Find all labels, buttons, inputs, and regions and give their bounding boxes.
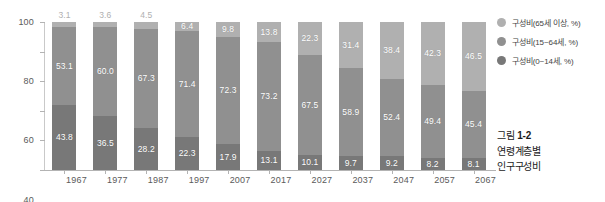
bar-group[interactable]: 42.349.48.2 bbox=[421, 22, 445, 170]
bar-segment-child[interactable]: 43.8 bbox=[52, 105, 76, 170]
bar-segment-child[interactable]: 13.1 bbox=[257, 151, 281, 170]
caption-line-2: 인구구성비 bbox=[497, 159, 541, 175]
x-tick-label: 2037 bbox=[340, 175, 386, 185]
bar-segment-elder[interactable]: 22.3 bbox=[298, 22, 322, 55]
legend-item[interactable]: 구성비(65세 이상, %) bbox=[497, 17, 581, 28]
legend-swatch-icon bbox=[497, 37, 506, 46]
bar-segment-elder[interactable]: 46.5 bbox=[462, 22, 486, 91]
legend-label: 구성비(15~64세, %) bbox=[512, 36, 578, 47]
y-tick-label: 60 bbox=[24, 135, 34, 145]
bar-value-label: 4.5 bbox=[140, 11, 152, 20]
bar-value-label: 8.2 bbox=[427, 160, 439, 169]
x-tick-label: 1997 bbox=[176, 175, 222, 185]
x-tick bbox=[392, 170, 393, 174]
bar-value-label: 38.4 bbox=[383, 46, 400, 55]
x-tick bbox=[105, 170, 106, 174]
bar-group[interactable]: 9.872.317.9 bbox=[216, 22, 240, 170]
y-tick-label: 40 bbox=[24, 195, 34, 202]
x-tick-label: 2007 bbox=[217, 175, 263, 185]
bar-segment-child[interactable]: 17.9 bbox=[216, 144, 240, 170]
bar-segment-child[interactable]: 8.1 bbox=[462, 158, 486, 170]
bar-segment-child[interactable]: 8.2 bbox=[421, 158, 445, 170]
bar-segment-work[interactable]: 45.4 bbox=[462, 91, 486, 158]
bar-value-label: 73.2 bbox=[261, 92, 278, 101]
bar-group[interactable]: 22.367.510.1 bbox=[298, 22, 322, 170]
legend-swatch-icon bbox=[497, 18, 506, 27]
y-tick: 0 bbox=[40, 170, 45, 171]
plot-area: 020406080100 3.153.143.83.660.036.54.567… bbox=[44, 22, 494, 179]
bar-segment-elder[interactable]: 31.4 bbox=[339, 22, 363, 68]
bar-group[interactable]: 13.873.213.1 bbox=[257, 22, 281, 170]
bar-segment-elder[interactable]: 38.4 bbox=[380, 22, 404, 79]
bar-value-label: 17.9 bbox=[220, 153, 237, 162]
bar-group[interactable]: 6.471.422.3 bbox=[175, 22, 199, 170]
bar-segment-work[interactable]: 67.3 bbox=[134, 29, 158, 129]
bar-value-label: 53.1 bbox=[56, 62, 73, 71]
bar-segment-work[interactable]: 73.2 bbox=[257, 42, 281, 150]
bar-group[interactable]: 46.545.48.1 bbox=[462, 22, 486, 170]
bar-series-container: 3.153.143.83.660.036.54.567.328.26.471.4… bbox=[44, 22, 494, 170]
bar-segment-work[interactable]: 58.9 bbox=[339, 68, 363, 155]
bar-value-label: 9.7 bbox=[345, 159, 357, 168]
bar-value-label: 8.1 bbox=[467, 160, 479, 169]
y-tick-label: 80 bbox=[24, 76, 34, 86]
bar-value-label: 45.4 bbox=[465, 120, 482, 129]
bar-value-label: 28.2 bbox=[138, 145, 155, 154]
caption-line-1: 연령계층별 bbox=[497, 144, 541, 160]
bar-value-label: 3.6 bbox=[99, 11, 111, 20]
bar-value-label: 13.8 bbox=[261, 28, 278, 37]
x-tick bbox=[187, 170, 188, 174]
bar-segment-work[interactable]: 53.1 bbox=[52, 27, 76, 106]
bar-segment-child[interactable]: 9.2 bbox=[380, 156, 404, 170]
bar-segment-work[interactable]: 52.4 bbox=[380, 79, 404, 157]
bar-value-label: 71.4 bbox=[179, 80, 196, 89]
bar-segment-elder[interactable]: 13.8 bbox=[257, 22, 281, 42]
bar-segment-elder[interactable]: 4.5 bbox=[134, 22, 158, 29]
x-tick bbox=[474, 170, 475, 174]
bar-group[interactable]: 3.153.143.8 bbox=[52, 22, 76, 170]
x-tick bbox=[228, 170, 229, 174]
bar-segment-child[interactable]: 36.5 bbox=[93, 116, 117, 170]
x-tick-label: 1967 bbox=[53, 175, 99, 185]
legend-swatch-icon bbox=[497, 56, 506, 65]
x-tick bbox=[64, 170, 65, 174]
bar-segment-work[interactable]: 72.3 bbox=[216, 37, 240, 144]
figure-caption: 그림 1-2 연령계층별 인구구성비 bbox=[497, 128, 541, 175]
bar-group[interactable]: 3.660.036.5 bbox=[93, 22, 117, 170]
x-tick-label: 2027 bbox=[299, 175, 345, 185]
bar-segment-elder[interactable]: 6.4 bbox=[175, 22, 199, 31]
bar-group[interactable]: 31.458.99.7 bbox=[339, 22, 363, 170]
bar-segment-child[interactable]: 10.1 bbox=[298, 155, 322, 170]
bar-value-label: 22.3 bbox=[301, 34, 318, 43]
bar-segment-child[interactable]: 22.3 bbox=[175, 137, 199, 170]
caption-prefix: 그림 bbox=[497, 130, 515, 141]
x-tick bbox=[269, 170, 270, 174]
bar-segment-elder[interactable]: 42.3 bbox=[421, 22, 445, 85]
bar-value-label: 67.5 bbox=[301, 101, 318, 110]
bar-value-label: 72.3 bbox=[220, 86, 237, 95]
bar-segment-child[interactable]: 9.7 bbox=[339, 156, 363, 170]
bar-segment-elder[interactable]: 9.8 bbox=[216, 22, 240, 37]
bar-group[interactable]: 38.452.49.2 bbox=[380, 22, 404, 170]
bar-value-label: 36.5 bbox=[97, 139, 114, 148]
population-composition-chart: 020406080100 3.153.143.83.660.036.54.567… bbox=[0, 0, 605, 202]
bar-value-label: 52.4 bbox=[383, 113, 400, 122]
bar-segment-work[interactable]: 60.0 bbox=[93, 27, 117, 116]
legend: 구성비(65세 이상, %)구성비(15~64세, %)구성비(0~14세, %… bbox=[497, 17, 581, 66]
bar-segment-work[interactable]: 67.5 bbox=[298, 55, 322, 155]
bar-group[interactable]: 4.567.328.2 bbox=[134, 22, 158, 170]
legend-label: 구성비(0~14세, %) bbox=[512, 55, 574, 66]
x-axis-line bbox=[44, 170, 496, 171]
bar-segment-work[interactable]: 49.4 bbox=[421, 85, 445, 158]
bar-value-label: 9.8 bbox=[222, 25, 234, 34]
x-tick bbox=[433, 170, 434, 174]
caption-number: 1-2 bbox=[517, 130, 531, 141]
legend-item[interactable]: 구성비(15~64세, %) bbox=[497, 36, 581, 47]
bar-segment-work[interactable]: 71.4 bbox=[175, 31, 199, 137]
x-tick-label: 1977 bbox=[94, 175, 140, 185]
legend-item[interactable]: 구성비(0~14세, %) bbox=[497, 55, 581, 66]
y-tick-label: 100 bbox=[18, 17, 34, 27]
bar-segment-child[interactable]: 28.2 bbox=[134, 128, 158, 170]
bar-value-label: 13.1 bbox=[261, 156, 278, 165]
legend-label: 구성비(65세 이상, %) bbox=[512, 17, 581, 28]
